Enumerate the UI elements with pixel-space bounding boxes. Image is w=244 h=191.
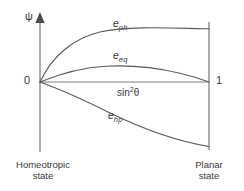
- origin-tick-label: 0: [24, 74, 30, 87]
- caption-planar-line2: state: [178, 171, 240, 182]
- curve-label-e-hp-sub: hp: [114, 115, 123, 124]
- curve-label-e-eq-sub: eq: [119, 55, 128, 64]
- y-axis-arrow-icon: [35, 12, 44, 23]
- curve-label-sin2theta-arg: θ: [134, 87, 140, 98]
- planar-tick-label: 1: [216, 74, 222, 87]
- curve-label-e-ph-base: e: [113, 17, 119, 29]
- curve-label-e-ph: eph: [113, 17, 128, 30]
- curve-label-e-hp: ehp: [108, 109, 123, 122]
- y-axis-label: ψ: [25, 10, 33, 23]
- curve-label-e-eq: eeq: [113, 49, 128, 62]
- figure-container: ψ 0 1 eph eeq sin2θ ehp Homeotropic stat…: [0, 0, 244, 191]
- caption-homeotropic-line2: state: [4, 171, 82, 182]
- curve-label-sin2theta: sin2θ: [117, 86, 139, 99]
- curve-label-e-ph-sub: ph: [119, 23, 128, 32]
- curve-label-e-eq-base: e: [113, 49, 119, 61]
- caption-homeotropic-state: Homeotropic state: [4, 160, 82, 182]
- curve-label-e-hp-base: e: [108, 109, 114, 121]
- curve-label-sin2theta-base: sin: [117, 87, 130, 98]
- caption-planar-state: Planar state: [178, 160, 240, 182]
- curve-e-eq: [40, 66, 209, 82]
